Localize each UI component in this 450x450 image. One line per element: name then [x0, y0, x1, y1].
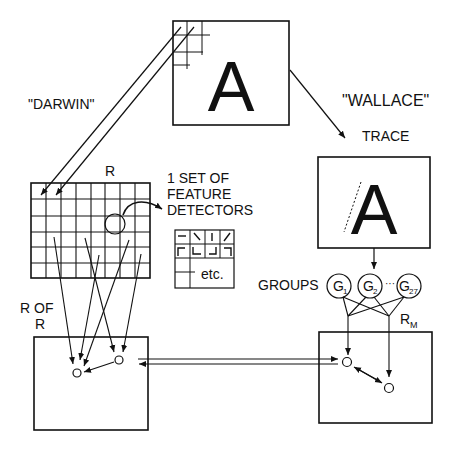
retina-grid — [31, 183, 150, 278]
feature-circle — [105, 214, 125, 234]
wallace-label: "WALLACE" — [342, 92, 429, 109]
feature-arrow — [123, 202, 162, 215]
groups-label: GROUPS — [258, 277, 319, 293]
node-right — [115, 356, 123, 364]
group-g27: G 27 — [397, 274, 421, 298]
group-connections — [343, 297, 404, 377]
r-of-r-box — [34, 337, 148, 430]
cross-box-connection — [138, 359, 338, 364]
wallace-connection — [290, 70, 345, 138]
stimulus-box: A — [173, 21, 289, 126]
svg-text:27: 27 — [409, 287, 418, 296]
r-of-label-1: R OF — [20, 300, 53, 316]
feature-label-2: FEATURE — [167, 186, 231, 202]
rm-node-right — [385, 384, 394, 393]
node-left — [73, 369, 81, 377]
group-g2: G 2 — [358, 274, 382, 298]
feature-label-1: 1 SET OF — [167, 170, 229, 186]
grid-to-node-lines — [54, 237, 141, 366]
stimulus-letter: A — [208, 48, 255, 126]
rm-label-sub: M — [410, 320, 418, 330]
group-g1: G 1 — [327, 274, 351, 298]
trace-label: TRACE — [362, 128, 409, 144]
rm-node-left — [343, 358, 352, 367]
svg-text:2: 2 — [373, 287, 378, 296]
group-ellipsis: ··· — [385, 278, 395, 289]
etc-label: etc. — [201, 266, 224, 282]
rm-box — [319, 332, 432, 423]
r-label: R — [105, 163, 115, 179]
svg-text:1: 1 — [343, 287, 348, 296]
darwin-wallace-diagram: A "DARWIN" "WALLACE" TRACE A — [0, 0, 450, 450]
trace-box: A — [318, 157, 430, 249]
r-of-label-2: R — [35, 316, 45, 332]
feature-label-3: DETECTORS — [167, 202, 253, 218]
rm-label: R — [400, 311, 410, 327]
trace-letter: A — [351, 171, 398, 249]
darwin-label: "DARWIN" — [28, 96, 94, 112]
